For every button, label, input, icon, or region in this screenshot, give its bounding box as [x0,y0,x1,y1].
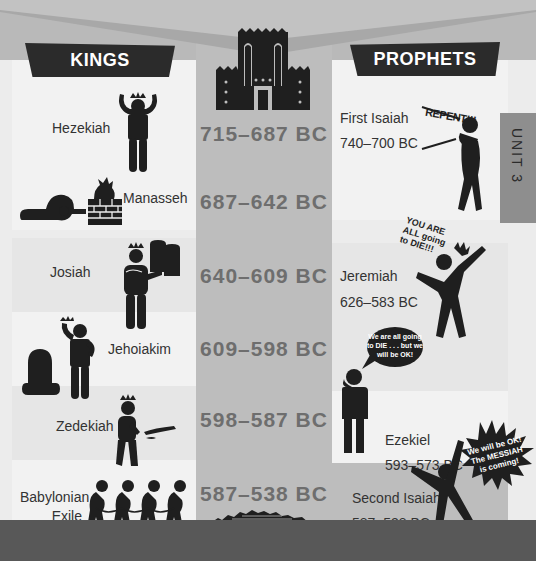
prophet-shouting-icon [420,105,485,215]
king-over-kneeling-figure-icon [24,315,102,399]
unit-label: UNIT 3 [509,128,525,184]
prophet-dates: 740–700 BC [340,135,418,151]
date-label: 609–598 BC [196,337,332,361]
date-label: 687–642 BC [196,190,332,214]
svg-text:will be OK!: will be OK! [376,351,413,358]
prophets-header: PROPHETS [350,42,500,76]
bottom-bar [0,520,536,561]
king-name-line1: Babylonian [20,488,82,507]
date-label: 715–687 BC [196,122,332,146]
prophet-name-jeremiah: Jeremiah [340,268,398,284]
bowing-to-idol-icon [18,175,122,225]
king-name-josiah: Josiah [50,264,90,280]
prophet-name-first-isaiah: First Isaiah [340,110,408,126]
date-label: 640–609 BC [196,264,332,288]
king-arms-raised-icon [116,90,160,174]
king-name-manasseh: Manasseh [123,190,188,206]
svg-text:to DIE . . . but we: to DIE . . . but we [367,342,423,349]
kings-header: KINGS [25,43,175,77]
king-name-jehoiakim: Jehoiakim [108,341,171,357]
king-name-hezekiah: Hezekiah [52,120,110,136]
svg-text:We are all going: We are all going [368,333,422,341]
king-broken-crown-icon [108,392,180,468]
temple-icon [216,24,310,110]
date-label: 587–538 BC [196,482,332,506]
prophet-pointing-icon [414,238,490,338]
prophet-dates: 626–583 BC [340,294,418,310]
date-label: 598–587 BC [196,408,332,432]
king-with-tablets-icon [118,240,188,330]
king-name-zedekiah: Zedekiah [56,418,114,434]
infographic-page: KINGS PROPHETS 715–687 BC 687–642 BC 640… [0,0,536,561]
